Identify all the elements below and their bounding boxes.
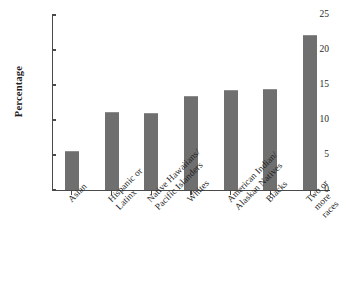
y-axis-tick — [52, 119, 56, 120]
y-axis-tick — [52, 84, 56, 85]
y-axis-tick — [52, 154, 56, 155]
y-axis-tick-label: 25 — [288, 10, 334, 20]
bar — [224, 90, 238, 190]
bar — [303, 35, 317, 190]
y-axis-tick — [52, 189, 56, 190]
y-axis-tick — [52, 49, 56, 50]
bar — [65, 151, 79, 190]
y-axis-title: Percentage — [13, 52, 24, 132]
bar — [105, 112, 119, 190]
y-axis-tick — [52, 14, 56, 15]
y-axis-line — [52, 15, 53, 191]
